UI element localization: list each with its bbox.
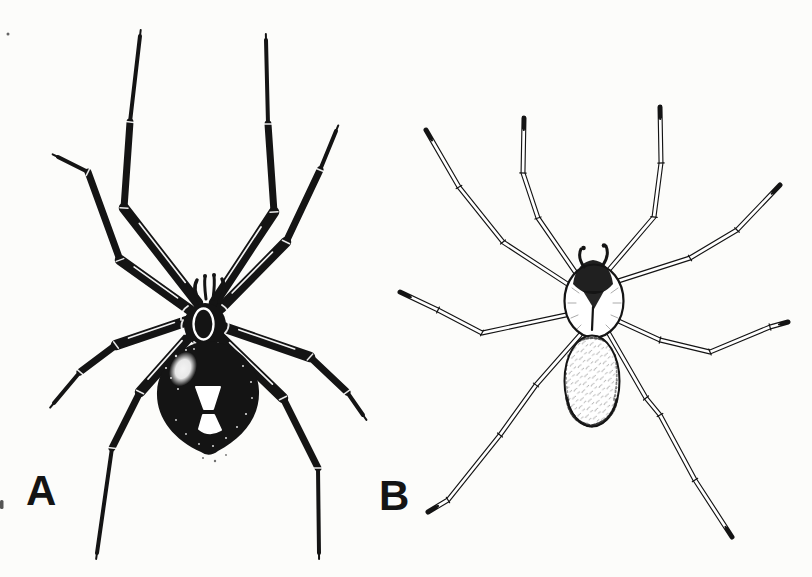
- brown-recluse-leg-upper-right: [607, 107, 664, 272]
- violin-neck-line: [592, 307, 593, 330]
- panel-b-label: B: [379, 475, 409, 517]
- head-shading: [573, 260, 613, 294]
- brown-recluse-leg-front-left: [426, 130, 572, 287]
- black-widow-legs: [50, 30, 366, 559]
- scan-speck: [7, 33, 10, 36]
- black-widow-illustration: [50, 30, 366, 559]
- brown-recluse-leg-hind-right: [608, 332, 732, 537]
- brown-recluse-illustration: [400, 107, 788, 537]
- pedipalp-tip: [212, 273, 216, 277]
- pedipalp-tip: [203, 274, 207, 278]
- brown-recluse-leg-mid-left: [400, 292, 580, 336]
- scan-speck: [0, 500, 4, 509]
- black-widow-leg-upper-left: [53, 154, 190, 310]
- black-widow-leg-upper-right: [221, 125, 338, 308]
- panel-a-label: A: [26, 470, 56, 512]
- edge-stipple: [202, 454, 227, 462]
- brown-recluse-leg-upper-left: [520, 118, 578, 276]
- brown-recluse-leg-hind-left: [428, 335, 580, 512]
- brown-recluse-leg-mid-right: [612, 318, 788, 355]
- figure-canvas: A B: [0, 0, 812, 577]
